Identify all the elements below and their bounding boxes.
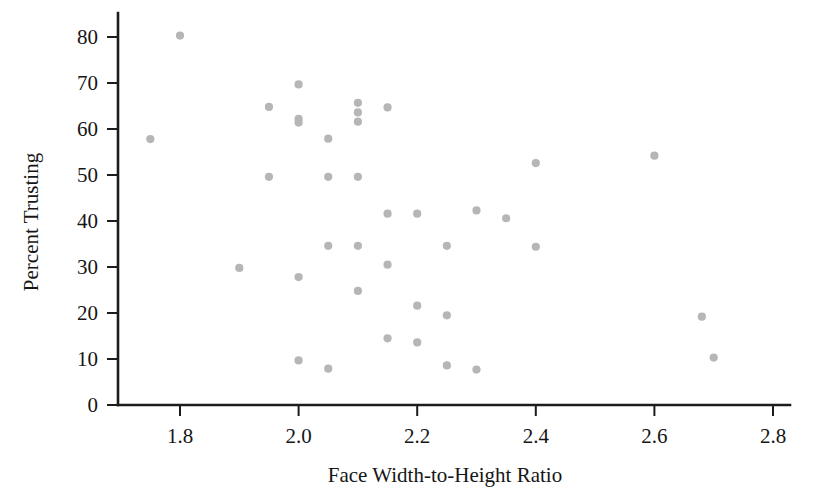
- data-point: [698, 313, 706, 321]
- data-point: [383, 103, 391, 111]
- data-point: [324, 365, 332, 373]
- x-axis-ticks: 1.82.02.22.42.62.8: [167, 405, 786, 448]
- x-tick-label: 2.4: [523, 424, 550, 448]
- data-point: [146, 135, 154, 143]
- data-point: [443, 242, 451, 250]
- y-tick-label: 30: [77, 255, 98, 279]
- data-point: [354, 108, 362, 116]
- data-point: [235, 264, 243, 272]
- data-point: [295, 118, 303, 126]
- data-point: [383, 261, 391, 269]
- x-axis: 1.82.02.22.42.62.8: [118, 405, 790, 448]
- data-point: [472, 365, 480, 373]
- x-tick-label: 2.6: [641, 424, 667, 448]
- data-point: [295, 80, 303, 88]
- data-point: [443, 361, 451, 369]
- y-tick-label: 40: [77, 209, 98, 233]
- data-point: [354, 118, 362, 126]
- y-axis-title: Percent Trusting: [19, 152, 43, 291]
- y-tick-label: 80: [77, 25, 98, 49]
- data-point: [413, 210, 421, 218]
- data-point: [324, 135, 332, 143]
- data-point: [324, 242, 332, 250]
- y-tick-label: 0: [88, 393, 99, 417]
- data-point: [413, 302, 421, 310]
- data-point: [265, 173, 273, 181]
- data-points-layer: [146, 32, 718, 374]
- plot-canvas: 01020304050607080 1.82.02.22.42.62.8 Fac…: [0, 0, 826, 502]
- data-point: [354, 99, 362, 107]
- data-point: [710, 354, 718, 362]
- data-point: [354, 242, 362, 250]
- x-tick-label: 2.8: [760, 424, 786, 448]
- data-point: [532, 159, 540, 167]
- y-tick-label: 20: [77, 301, 98, 325]
- data-point: [295, 356, 303, 364]
- x-tick-label: 1.8: [167, 424, 193, 448]
- y-axis: 01020304050607080: [77, 13, 118, 417]
- data-point: [532, 243, 540, 251]
- y-tick-label: 70: [77, 71, 98, 95]
- data-point: [650, 152, 658, 160]
- x-tick-label: 2.2: [404, 424, 430, 448]
- y-tick-label: 60: [77, 117, 98, 141]
- y-axis-ticks: 01020304050607080: [77, 25, 118, 417]
- data-point: [472, 206, 480, 214]
- scatter-plot-figure: 01020304050607080 1.82.02.22.42.62.8 Fac…: [0, 0, 826, 502]
- data-point: [413, 338, 421, 346]
- data-point: [265, 103, 273, 111]
- data-point: [176, 32, 184, 40]
- x-tick-label: 2.0: [285, 424, 311, 448]
- data-point: [324, 173, 332, 181]
- data-point: [502, 214, 510, 222]
- y-tick-label: 50: [77, 163, 98, 187]
- data-point: [295, 273, 303, 281]
- x-axis-title: Face Width-to-Height Ratio: [328, 463, 562, 487]
- data-point: [383, 334, 391, 342]
- data-point: [354, 287, 362, 295]
- data-point: [443, 311, 451, 319]
- data-point: [383, 210, 391, 218]
- y-tick-label: 10: [77, 347, 98, 371]
- data-point: [354, 173, 362, 181]
